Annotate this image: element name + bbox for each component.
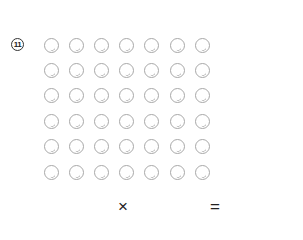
circle-icon (195, 114, 210, 129)
circle-icon (144, 63, 159, 78)
circle-icon (44, 139, 59, 154)
times-sign: × (118, 198, 128, 214)
circle-icon (144, 114, 159, 129)
circle-icon (44, 63, 59, 78)
circle-icon (195, 165, 210, 180)
circle-icon (170, 63, 185, 78)
circle-icon (119, 38, 134, 53)
circle-icon (94, 88, 109, 103)
circle-icon (94, 38, 109, 53)
circle-icon (170, 114, 185, 129)
circle-icon (44, 38, 59, 53)
circle-icon (69, 165, 84, 180)
circle-icon (170, 165, 185, 180)
circle-icon (119, 165, 134, 180)
circle-icon (44, 165, 59, 180)
circle-icon (144, 88, 159, 103)
circle-icon (94, 165, 109, 180)
circle-icon (195, 38, 210, 53)
circle-icon (69, 114, 84, 129)
circle-icon (119, 139, 134, 154)
circle-icon (94, 63, 109, 78)
circle-icon (144, 165, 159, 180)
circle-icon (195, 63, 210, 78)
circle-icon (144, 38, 159, 53)
circle-icon (119, 88, 134, 103)
circle-icon (69, 139, 84, 154)
equals-sign: = (210, 198, 220, 214)
circle-icon (195, 88, 210, 103)
circle-icon (195, 139, 210, 154)
circle-icon (119, 114, 134, 129)
circle-icon (170, 88, 185, 103)
circle-icon (69, 38, 84, 53)
circle-icon (94, 114, 109, 129)
circle-icon (69, 63, 84, 78)
circle-icon (144, 139, 159, 154)
problem-number-badge: 11 (11, 38, 24, 51)
circle-icon (44, 88, 59, 103)
circle-icon (94, 139, 109, 154)
circle-icon (44, 114, 59, 129)
circle-icon (119, 63, 134, 78)
circle-icon (69, 88, 84, 103)
circle-icon (170, 38, 185, 53)
circle-icon (170, 139, 185, 154)
